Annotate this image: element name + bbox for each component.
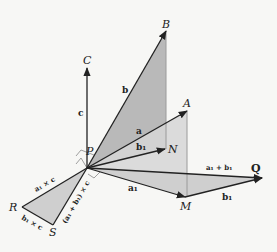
label-vector-c: c [78,108,84,118]
label-vector-a1: a₁ [128,183,138,193]
label-P: P [85,145,94,158]
right-angle-marker-2 [76,158,87,168]
label-vector-b1-MQ: b₁ [222,192,232,202]
label-vector-a: a [136,126,142,136]
label-S: S [49,226,57,239]
cross-product-diagram: B C A P N Q M R S b c a b₁ a₁ b₁ a₁ + b₁… [0,0,277,252]
label-A: A [182,97,191,110]
label-vector-a1-plus-b1: a₁ + b₁ [206,163,232,172]
label-vector-b: b [122,85,128,95]
label-N: N [167,143,178,156]
label-B: B [161,18,170,31]
label-M: M [179,200,192,213]
right-angle-marker-3 [88,172,100,178]
label-vector-b1: b₁ [136,142,146,152]
label-R: R [8,201,17,214]
label-C: C [83,54,92,67]
label-Q: Q [251,162,261,175]
